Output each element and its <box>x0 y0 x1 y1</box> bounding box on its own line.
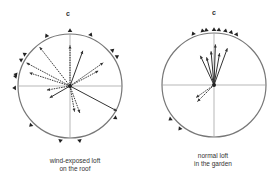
left-arrowhead-icon <box>100 63 103 66</box>
right-triangle-marker-icon <box>192 31 196 35</box>
left-triangle-marker-icon <box>45 34 49 38</box>
left-vector-arrow <box>40 47 70 86</box>
right-arrowhead-icon <box>197 98 200 101</box>
left-caption-line1: wind-exposed loft <box>30 157 120 165</box>
left-vector-arrow <box>70 86 117 111</box>
left-triangle-marker-icon <box>12 86 16 91</box>
right-vector-arrow <box>197 85 214 102</box>
left-vector-arrow <box>70 63 103 86</box>
left-arrowhead-icon <box>29 72 32 75</box>
left-triangle-marker-icon <box>68 28 73 32</box>
right-triangle-marker-icon <box>216 27 221 31</box>
right-center-dot <box>212 83 216 87</box>
right-triangle-marker-icon <box>204 28 209 32</box>
right-caption: normal loft in the garden <box>168 152 258 167</box>
left-arrowhead-icon <box>69 45 72 48</box>
left-center-dot <box>68 84 72 88</box>
left-triangle-marker-icon <box>19 59 23 63</box>
left-caption-line2: on the roof <box>30 165 120 173</box>
right-vector-arrow <box>214 48 227 85</box>
right-caption-line2: in the garden <box>168 160 258 168</box>
left-triangle-marker-icon <box>58 139 63 143</box>
right-top-label: c <box>212 9 216 16</box>
right-triangle-marker-icon <box>223 28 227 32</box>
right-caption-line1: normal loft <box>168 152 258 160</box>
left-vector-arrow <box>70 86 75 112</box>
left-triangle-marker-icon <box>113 115 117 119</box>
right-arrowhead-icon <box>210 51 213 54</box>
left-triangle-marker-icon <box>88 32 92 36</box>
right-triangle-marker-icon <box>234 32 238 36</box>
right-triangle-marker-icon <box>168 117 172 121</box>
right-triangle-marker-icon <box>229 30 233 34</box>
left-vector-arrow <box>70 51 83 86</box>
left-triangle-marker-icon <box>29 123 33 127</box>
right-vector-arrow <box>196 85 214 98</box>
right-triangle-marker-icon <box>178 126 182 130</box>
left-caption: wind-exposed loft on the roof <box>30 157 120 172</box>
left-top-label: c <box>66 10 70 17</box>
left-triangle-marker-icon <box>110 49 114 53</box>
right-triangle-marker-icon <box>200 28 204 32</box>
left-arrowhead-icon <box>95 71 98 74</box>
left-triangle-marker-icon <box>77 139 82 143</box>
right-triangle-marker-icon <box>212 27 217 31</box>
left-triangle-marker-icon <box>115 55 119 59</box>
left-triangle-marker-icon <box>23 53 27 57</box>
